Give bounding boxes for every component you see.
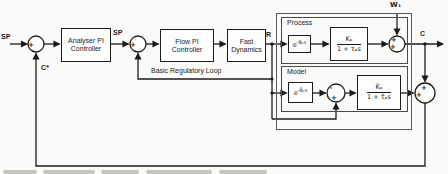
caption-blob [101,170,139,174]
process-deadtime-expression: e-θₚs [293,39,307,49]
sp-outer-label: SP [1,33,11,40]
sign-j2-feedback: - [134,47,137,55]
caption-blob [3,170,37,174]
branch-dot-r [270,42,273,45]
process-deadtime-exponent: -θₚs [297,39,307,45]
model-lag-denominator: 1 + τ̂ₚs [367,93,391,101]
process-lag-fraction: Kₚ1 + τₚs [337,36,361,53]
sp-inner-label: SP [113,29,123,36]
c-star-label: C* [41,64,49,71]
process-lag-denominator: 1 + τₚs [337,45,361,53]
process-section-label: Process [287,19,312,26]
basic-regulatory-loop-label: Basic Regulatory Loop [151,67,221,74]
branch-dot-flow-feedback [270,77,273,80]
c-label: C [420,30,425,37]
model-lag-numerator: K̂ₚ [367,84,391,93]
model-deadtime-exponent: -θ̂ₚs [298,87,308,93]
caption-blob [219,170,267,174]
fast-dynamics-label: Fast Dynamics [231,38,262,54]
model-section-label: Model [287,68,306,75]
model-deadtime-expression: e-θ̂ₚs [294,87,308,97]
model-deadtime-block: e-θ̂ₚs [288,82,313,103]
r-label: R [266,31,271,38]
branch-dot-model-input [270,91,273,94]
analyser-pi-controller-block: Analyser PI Controller [61,28,111,62]
sign-j1-feedback: - [32,47,35,55]
caption-blob [146,170,212,174]
caption-blob [43,170,95,174]
flow-pi-controller-block: Flow PI Controller [160,29,214,62]
model-lag-block: K̂ₚ1 + τ̂ₚs [357,75,401,110]
model-lag-fraction: K̂ₚ1 + τ̂ₚs [367,84,391,101]
fast-dynamics-block: Fast Dynamics [227,29,266,62]
flow-pi-controller-label: Flow PI Controller [172,38,202,54]
analyser-pi-controller-label: Analyser PI Controller [68,37,104,53]
process-lag-block: Kₚ1 + τₚs [330,27,368,61]
process-deadtime-block: e-θₚs [288,35,311,53]
branch-dot-c [423,42,426,45]
w1-label: W₁ [390,1,401,9]
sign-outer-top: + [421,84,427,92]
block-diagram: + - + - + + - + + + Process Model Analys… [0,0,448,174]
sign-outer-left: + [416,91,422,99]
process-lag-numerator: Kₚ [337,36,361,45]
